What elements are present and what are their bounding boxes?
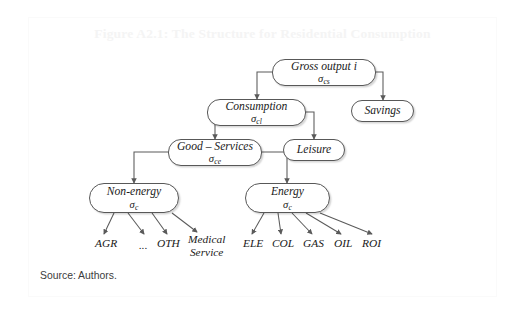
edge-gross-output-consumption — [257, 72, 272, 99]
leaf-medical-service[interactable]: Medical Service — [188, 233, 225, 258]
node-good-services-sigma: σce — [209, 153, 221, 164]
edge-consumption-leisure — [306, 112, 314, 139]
node-non-energy-label: Non-energy — [107, 186, 161, 199]
node-energy-label: Energy — [271, 186, 304, 199]
leaf-oil-label: OIL — [334, 237, 352, 250]
node-consumption[interactable]: Consumption σcl — [207, 99, 306, 126]
leaf-col-label: COL — [272, 237, 294, 250]
node-good-services[interactable]: Good – Services σce — [168, 139, 262, 166]
node-leisure[interactable]: Leisure — [283, 139, 345, 161]
leaf-medical-service-label-line2: Service — [188, 246, 225, 259]
edge-energy-oil — [306, 213, 341, 234]
edge-good-services-energy — [262, 152, 287, 183]
leaf-col[interactable]: COL — [272, 237, 294, 250]
edge-energy-gas — [292, 213, 312, 234]
leaf-ele[interactable]: ELE — [243, 237, 263, 250]
edge-non-energy-medical-service — [172, 213, 197, 232]
edge-non-energy-agr — [104, 213, 114, 234]
node-savings-label: Savings — [364, 105, 400, 118]
edge-gross-output-savings — [376, 72, 383, 100]
leaf-roi-label: ROI — [362, 237, 381, 250]
leaf-oil[interactable]: OIL — [334, 237, 352, 250]
leaf-roi[interactable]: ROI — [362, 237, 381, 250]
leaf-oth[interactable]: OTH — [157, 237, 180, 250]
connector-layer — [0, 0, 525, 316]
edge-energy-roi — [320, 213, 372, 234]
leaf-ellipsis[interactable]: ... — [139, 239, 148, 252]
edge-energy-col — [278, 213, 281, 234]
leaf-gas[interactable]: GAS — [303, 237, 324, 250]
node-non-energy-sigma: σc — [130, 199, 139, 210]
edge-energy-ele — [252, 213, 264, 234]
leaf-ellipsis-label: ... — [139, 239, 148, 252]
node-gross-output-sigma: σcs — [318, 73, 330, 84]
node-gross-output-label: Gross output i — [291, 61, 357, 74]
leaf-oth-label: OTH — [157, 237, 180, 250]
leaf-ele-label: ELE — [243, 237, 263, 250]
leaf-agr-label: AGR — [95, 237, 117, 250]
node-gross-output[interactable]: Gross output i σcs — [272, 59, 376, 86]
leaf-gas-label: GAS — [303, 237, 324, 250]
node-energy-sigma: σc — [283, 199, 292, 210]
edge-good-services-non-energy — [134, 152, 168, 183]
node-energy[interactable]: Energy σc — [245, 183, 330, 213]
node-leisure-label: Leisure — [297, 144, 331, 157]
source-note: Source: Authors. — [40, 270, 117, 281]
node-consumption-label: Consumption — [226, 101, 288, 114]
figure-canvas: Figure A2.1: The Structure for Residenti… — [0, 0, 525, 316]
node-consumption-sigma: σcl — [251, 113, 262, 124]
node-savings[interactable]: Savings — [351, 100, 414, 122]
leaf-medical-service-label-line1: Medical — [188, 233, 225, 246]
edge-non-energy-ellipsis — [128, 213, 144, 234]
node-non-energy[interactable]: Non-energy σc — [89, 183, 179, 213]
leaf-agr[interactable]: AGR — [95, 237, 117, 250]
node-good-services-label: Good – Services — [177, 141, 253, 154]
edge-non-energy-oth — [152, 213, 167, 234]
